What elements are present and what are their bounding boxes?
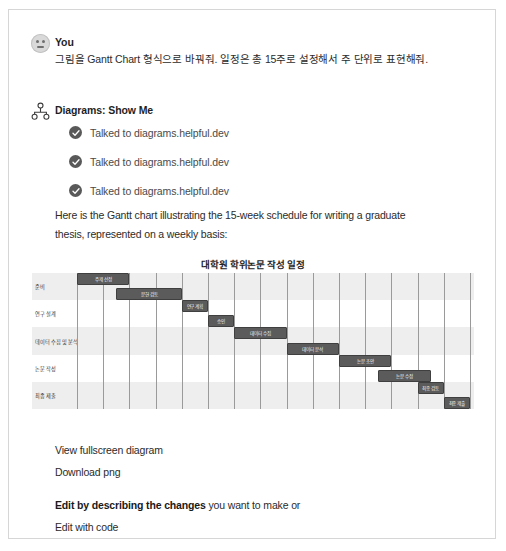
gantt-gridline <box>313 273 314 409</box>
gantt-task-label: 승인 <box>217 318 225 324</box>
gantt-gridline <box>339 273 340 409</box>
gantt-task-bar: 최종 검토 <box>418 382 444 394</box>
gantt-task-bar: 데이터 분석 <box>287 343 339 355</box>
tool-call-label: Talked to diagrams.helpful.dev <box>90 156 229 168</box>
gantt-row-band <box>32 382 474 409</box>
edit-by-describing-rest-text: you want to make or <box>206 499 300 511</box>
gantt-row-label: 데이터 수집 및 분석 <box>35 338 78 345</box>
gantt-task-bar: 논문 수정 <box>378 370 430 382</box>
user-avatar-face-icon <box>31 34 50 53</box>
assistant-intro-line-1: Here is the Gantt chart illustrating the… <box>55 206 405 225</box>
edit-by-describing-bold-text: Edit by describing the changes <box>55 499 206 511</box>
gantt-task-bar: 최종 제출 <box>444 397 470 409</box>
diagrams-plugin-icon <box>31 102 50 121</box>
gantt-task-label: 최종 검토 <box>422 385 439 391</box>
download-png-link[interactable]: Download png <box>55 466 120 478</box>
edit-with-code-link[interactable]: Edit with code <box>55 521 118 533</box>
gantt-gridline <box>287 273 288 409</box>
gantt-task-label: 논문 수정 <box>396 373 413 379</box>
gantt-task-label: 주제 선정 <box>95 276 112 282</box>
gantt-task-bar: 승인 <box>208 315 234 327</box>
gantt-gridline <box>208 273 209 409</box>
gantt-row-label: 준비 <box>35 283 45 290</box>
user-sender-name: You <box>55 36 74 48</box>
gantt-row-label: 최종 제출 <box>35 392 56 399</box>
gantt-gridline <box>182 273 183 409</box>
gantt-task-label: 논문 초안 <box>357 358 374 364</box>
check-circle-icon <box>69 126 82 139</box>
gantt-task-label: 데이터 수집 <box>250 330 271 336</box>
gantt-task-label: 최종 제출 <box>449 400 466 406</box>
assistant-sender-name: Diagrams: Show Me <box>55 104 153 116</box>
tool-call-label: Talked to diagrams.helpful.dev <box>90 185 229 197</box>
gantt-gridline <box>234 273 235 409</box>
gantt-gridline <box>470 273 471 409</box>
gantt-task-bar: 연구 계획 <box>182 300 208 312</box>
gantt-gridline <box>391 273 392 409</box>
chat-message-card: You 그림을 Gantt Chart 형식으로 바꿔줘. 일정은 총 15주로… <box>8 9 496 539</box>
check-circle-icon <box>69 184 82 197</box>
gantt-gridline <box>260 273 261 409</box>
gantt-gridline <box>365 273 366 409</box>
gantt-plot-area: 준비연구 설계데이터 수집 및 분석논문 작성최종 제출주제 선정문헌 검토연구… <box>32 273 474 409</box>
user-message-text: 그림을 Gantt Chart 형식으로 바꿔줘. 일정은 총 15주로 설정해… <box>55 50 428 69</box>
gantt-row-label: 연구 설계 <box>35 310 56 317</box>
gantt-task-bar: 문헌 검토 <box>116 288 182 300</box>
gantt-task-label: 문헌 검토 <box>141 291 158 297</box>
gantt-task-bar: 데이터 수집 <box>234 327 286 339</box>
view-fullscreen-diagram-link[interactable]: View fullscreen diagram <box>55 444 163 456</box>
gantt-gridline <box>103 273 104 409</box>
gantt-row-label: 논문 작성 <box>35 365 56 372</box>
gantt-task-bar: 논문 초안 <box>339 355 391 367</box>
tool-call-label: Talked to diagrams.helpful.dev <box>90 127 229 139</box>
check-circle-icon <box>69 155 82 168</box>
assistant-intro-line-2: thesis, represented on a weekly basis: <box>55 225 227 244</box>
gantt-task-label: 데이터 분석 <box>302 346 323 352</box>
gantt-gridline <box>444 273 445 409</box>
edit-by-describing-link[interactable]: Edit by describing the changes you want … <box>55 499 300 511</box>
gantt-task-label: 연구 계획 <box>187 303 204 309</box>
gantt-gridline <box>77 273 78 409</box>
gantt-task-bar: 주제 선정 <box>77 273 129 285</box>
chart-title: 대학원 학위논문 작성 일정 <box>32 257 474 271</box>
gantt-row-band <box>32 300 474 327</box>
gantt-chart[interactable]: 대학원 학위논문 작성 일정 준비연구 설계데이터 수집 및 분석논문 작성최종… <box>32 253 474 418</box>
